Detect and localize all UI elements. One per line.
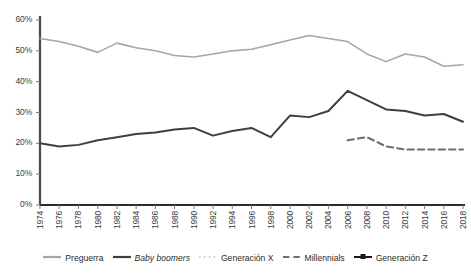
legend-label: Generación X bbox=[221, 253, 274, 263]
y-tick-label: 50% bbox=[0, 45, 32, 55]
x-tick-label: 2012 bbox=[400, 211, 410, 229]
x-tick-label: 1994 bbox=[227, 211, 237, 229]
x-tick-label: 1998 bbox=[266, 211, 276, 229]
legend-label: Millennials bbox=[305, 253, 345, 263]
x-tick-label: 2010 bbox=[381, 211, 391, 229]
x-tick-label: 2002 bbox=[304, 211, 314, 229]
x-tick-label: 2004 bbox=[323, 211, 333, 229]
series-line-millennials bbox=[348, 137, 463, 149]
x-tick-label: 2000 bbox=[285, 211, 295, 229]
legend-item-preguerra[interactable]: Preguerra bbox=[43, 253, 103, 263]
legend-item-millennials[interactable]: Millennials bbox=[283, 253, 345, 263]
x-tick-label: 1982 bbox=[112, 211, 122, 229]
series-line-baby_boomers bbox=[40, 91, 463, 147]
x-tick-label: 1996 bbox=[247, 211, 257, 229]
data-series-group bbox=[40, 35, 463, 149]
y-tick-label: 40% bbox=[0, 76, 32, 86]
plot-area bbox=[0, 0, 471, 278]
line-chart: 0%10%20%30%40%50%60% 1974197619781980198… bbox=[0, 0, 471, 278]
y-tick-label: 60% bbox=[0, 14, 32, 24]
x-tick-label: 2018 bbox=[458, 211, 468, 229]
legend-swatch-icon bbox=[113, 253, 131, 263]
x-tick-label: 2008 bbox=[362, 211, 372, 229]
legend-item-generación_x[interactable]: Generación X bbox=[199, 253, 274, 263]
series-line-preguerra bbox=[40, 35, 463, 66]
legend-label: Baby boomers bbox=[135, 253, 190, 263]
x-tick-label: 2006 bbox=[343, 211, 353, 229]
y-tick-label: 10% bbox=[0, 168, 32, 178]
x-tick-label: 1992 bbox=[208, 211, 218, 229]
x-tick-label: 1976 bbox=[54, 211, 64, 229]
legend-item-generación_z[interactable]: Generación Z bbox=[354, 253, 428, 263]
x-tick-label: 1980 bbox=[93, 211, 103, 229]
chart-legend: PreguerraBaby boomersGeneración XMillenn… bbox=[0, 253, 471, 263]
legend-item-baby_boomers[interactable]: Baby boomers bbox=[113, 253, 190, 263]
x-tick-label: 1990 bbox=[189, 211, 199, 229]
legend-swatch-icon bbox=[199, 253, 217, 263]
legend-swatch-icon bbox=[354, 253, 372, 263]
legend-swatch-icon bbox=[43, 253, 61, 263]
x-tick-label: 1986 bbox=[150, 211, 160, 229]
x-tick-label: 1978 bbox=[73, 211, 83, 229]
x-tick-label: 1974 bbox=[35, 211, 45, 229]
legend-label: Preguerra bbox=[65, 253, 103, 263]
x-tick-label: 2014 bbox=[420, 211, 430, 229]
y-tick-label: 20% bbox=[0, 137, 32, 147]
legend-swatch-icon bbox=[283, 253, 301, 263]
x-tick-label: 1988 bbox=[170, 211, 180, 229]
x-tick-label: 2016 bbox=[439, 211, 449, 229]
x-tick-label: 1984 bbox=[131, 211, 141, 229]
legend-label: Generación Z bbox=[376, 253, 428, 263]
y-tick-label: 0% bbox=[0, 199, 32, 209]
y-tick-label: 30% bbox=[0, 107, 32, 117]
